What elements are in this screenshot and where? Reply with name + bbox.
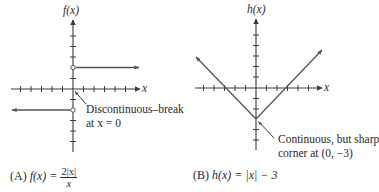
graph-b-annotation-line1: Continuous, but sharp [278, 133, 379, 146]
graph-a-caption: (A) f(x) = 2|x| x [10, 166, 77, 189]
graph-a-x-axis-label: x [142, 82, 147, 95]
graph-b-annotation-pointer [259, 122, 275, 139]
graph-a-caption-fraction: 2|x| x [60, 166, 77, 189]
graph-a-caption-prefix: (A) [10, 169, 27, 183]
graph-b [195, 19, 322, 150]
graph-b-annotation-line2: corner at (0, −3) [278, 147, 353, 160]
graph-a-y-axis-label: f(x) [63, 4, 79, 17]
graph-b-right-branch [256, 50, 322, 119]
graph-b-caption-function: h(x) = |x| − 3 [212, 168, 277, 182]
graph-b-caption-prefix: (B) [193, 168, 209, 182]
graph-a-caption-numerator: 2|x| [60, 166, 77, 178]
graph-a-open-circle-upper [71, 65, 75, 69]
graph-a-annotation-line2: at x = 0 [86, 117, 121, 130]
graph-a-caption-function: f(x) = [30, 169, 58, 183]
graph-a-annotation-pointer [75, 92, 86, 105]
graph-a [11, 20, 140, 152]
graph-a-caption-denominator: x [60, 178, 77, 189]
graph-b-caption: (B) h(x) = |x| − 3 [193, 168, 277, 183]
graph-b-x-axis-label: x [324, 81, 329, 94]
graph-b-y-axis-label: h(x) [247, 3, 266, 16]
graph-a-annotation-line1: Discontinuous–break [86, 103, 184, 116]
graph-a-open-circle-lower [71, 108, 75, 112]
